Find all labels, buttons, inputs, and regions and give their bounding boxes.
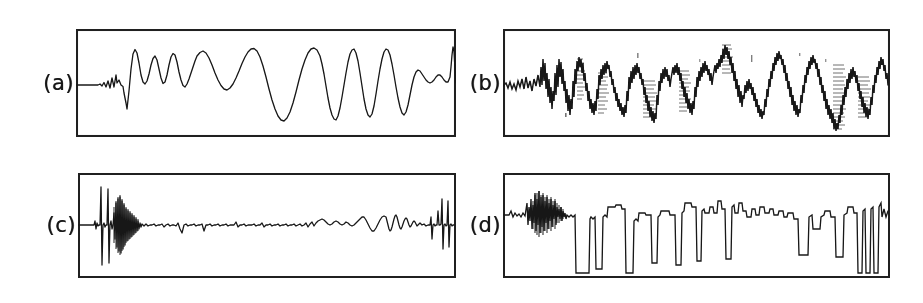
panel-a-border: [77, 30, 455, 136]
panel-c-waveform-svg: [78, 173, 456, 278]
panel-a-waveform-svg: [76, 29, 456, 137]
panel-a: (a): [30, 29, 456, 137]
panel-d-plot-box: [503, 173, 890, 278]
panel-b: (b): [457, 29, 890, 137]
panel-c: (c): [30, 173, 456, 278]
panel-a-label: (a): [30, 73, 74, 94]
panel-b-plot-box: [503, 29, 890, 137]
panel-a-plot-box: [76, 29, 456, 137]
panel-d-label: (d): [457, 215, 501, 236]
panel-b-waveform-svg: [503, 29, 890, 137]
panel-b-label: (b): [457, 73, 501, 94]
panel-c-plot-box: [78, 173, 456, 278]
panel-d-waveform-svg: [503, 173, 890, 278]
panel-c-label: (c): [30, 215, 76, 236]
figure-root: (a) (b): [0, 0, 923, 303]
panel-d: (d): [457, 173, 890, 278]
